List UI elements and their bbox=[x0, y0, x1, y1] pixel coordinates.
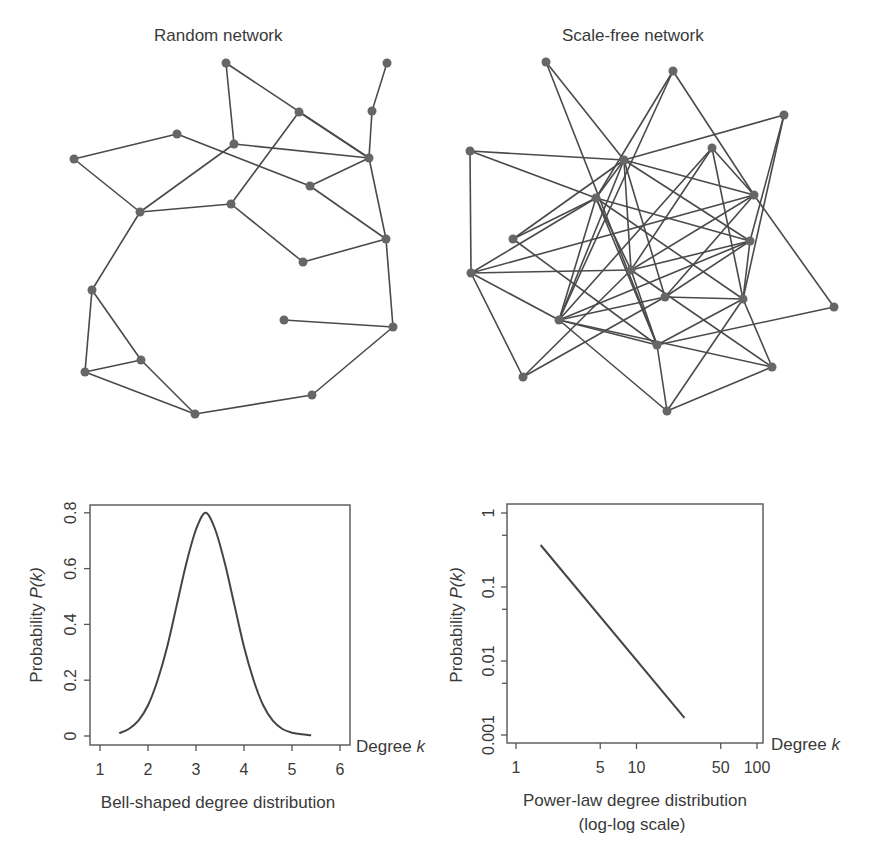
x-tick-label: 5 bbox=[288, 761, 297, 778]
bell-x-axis: 123456 bbox=[96, 745, 345, 778]
bell-chart-caption: Bell-shaped degree distribution bbox=[101, 793, 335, 812]
bell-y-axis: 00.20.40.60.8 bbox=[62, 502, 90, 741]
y-tick-label: 0.2 bbox=[62, 669, 79, 691]
x-tick-label: 10 bbox=[628, 759, 646, 776]
powerlaw-line bbox=[541, 545, 685, 718]
bell-y-axis-label: Probability P(k) bbox=[27, 567, 46, 682]
x-tick-label: 100 bbox=[744, 759, 771, 776]
x-tick-label: 5 bbox=[596, 759, 605, 776]
powerlaw-y-axis-label: Probability P(k) bbox=[447, 567, 466, 682]
y-tick-label: 0.01 bbox=[480, 645, 497, 676]
bell-curve-line bbox=[119, 513, 311, 735]
powerlaw-chart: 0.0010.010.11 151050100 Probability P(k)… bbox=[447, 504, 842, 834]
powerlaw-chart-frame bbox=[507, 504, 763, 743]
powerlaw-x-axis: 151050100 bbox=[512, 743, 771, 776]
x-tick-label: 2 bbox=[144, 761, 153, 778]
y-tick-label: 0.6 bbox=[62, 557, 79, 579]
degree-distribution-charts: 00.20.40.60.8 123456 Probability P(k) De… bbox=[0, 0, 879, 862]
bell-chart-frame bbox=[90, 505, 350, 745]
x-tick-label: 3 bbox=[192, 761, 201, 778]
y-tick-label: 0.1 bbox=[480, 576, 497, 598]
x-tick-label: 1 bbox=[96, 761, 105, 778]
powerlaw-chart-caption-scale: (log-log scale) bbox=[579, 815, 686, 834]
x-tick-label: 4 bbox=[240, 761, 249, 778]
y-tick-label: 0.8 bbox=[62, 502, 79, 524]
powerlaw-x-axis-label: Degree k bbox=[771, 735, 842, 754]
x-tick-label: 50 bbox=[712, 759, 730, 776]
bell-x-axis-label: Degree k bbox=[356, 737, 427, 756]
y-tick-label: 0.001 bbox=[480, 715, 497, 755]
powerlaw-chart-caption: Power-law degree distribution bbox=[523, 791, 747, 810]
x-tick-label: 6 bbox=[336, 761, 345, 778]
y-tick-label: 0 bbox=[62, 731, 79, 740]
bell-chart: 00.20.40.60.8 123456 Probability P(k) De… bbox=[27, 502, 427, 812]
y-tick-label: 1 bbox=[480, 508, 497, 517]
x-tick-label: 1 bbox=[512, 759, 521, 776]
powerlaw-y-axis: 0.0010.010.11 bbox=[480, 508, 507, 755]
y-tick-label: 0.4 bbox=[62, 613, 79, 635]
